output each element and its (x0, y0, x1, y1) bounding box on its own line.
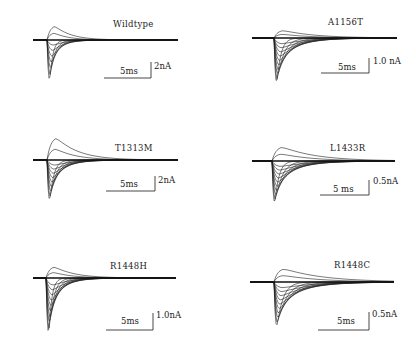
time-scale-label: 5ms (120, 179, 138, 189)
panel-wildtype: Wildtype 5ms 2nA (33, 19, 178, 78)
current-trace (33, 33, 178, 40)
figure-sodium-current-traces: Wildtype 5ms 2nA A1156T 5ms 1.0 nA T1313… (0, 0, 416, 356)
panel-t1313m: T1313M 5ms 2nA (33, 139, 178, 198)
panel-title: R1448C (334, 260, 370, 270)
time-scale-label: 5ms (121, 316, 139, 326)
current-trace (33, 278, 176, 328)
current-trace (33, 160, 178, 173)
current-trace (250, 282, 394, 291)
current-scale-label: 1.0 nA (373, 56, 402, 66)
current-trace (33, 160, 178, 196)
current-trace (33, 40, 178, 45)
current-traces (33, 139, 178, 198)
current-trace (250, 282, 394, 304)
current-trace (33, 278, 176, 290)
panel-title: L1433R (330, 143, 366, 153)
current-trace (250, 282, 394, 308)
time-scale-label: 5ms (337, 316, 355, 326)
time-scale-label: 5ms (338, 62, 356, 72)
panel-r1448h: R1448H 5ms 1.0nA (33, 261, 182, 330)
current-trace (33, 40, 178, 62)
current-trace (33, 278, 176, 285)
current-scale-label: 0.5nA (372, 309, 398, 319)
current-scale-label: 2nA (154, 61, 172, 71)
time-scale-label: 5ms (120, 66, 138, 76)
current-trace (33, 278, 176, 330)
time-scale-label: 5 ms (333, 184, 354, 194)
current-trace (252, 38, 397, 56)
current-traces (33, 267, 176, 330)
panel-l1433r: L1433R 5 ms 0.5nA (252, 143, 399, 201)
current-traces (252, 148, 395, 201)
current-scale-label: 2nA (158, 175, 176, 185)
panel-title: Wildtype (113, 19, 154, 29)
current-scale-label: 1.0nA (156, 310, 182, 320)
current-trace (33, 149, 178, 160)
current-trace (33, 160, 178, 169)
current-scale-label: 0.5nA (373, 176, 399, 186)
panel-title: T1313M (115, 143, 153, 153)
current-trace (33, 160, 178, 191)
panel-title: A1156T (327, 17, 363, 27)
current-trace (33, 40, 178, 78)
current-trace (250, 269, 394, 282)
panel-title: R1448H (110, 261, 147, 271)
panel-r1448c: R1448C 5ms 0.5nA (250, 260, 398, 330)
panel-a1156t: A1156T 5ms 1.0 nA (252, 17, 402, 80)
